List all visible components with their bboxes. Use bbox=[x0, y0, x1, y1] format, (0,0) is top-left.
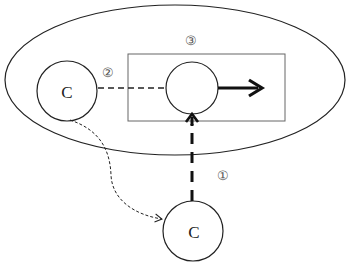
box-label-3: ③ bbox=[185, 34, 197, 47]
diagram-canvas: C C ③ ② ① bbox=[0, 0, 348, 262]
bottom-c-label: C bbox=[188, 224, 199, 241]
edge-label-1: ① bbox=[217, 169, 229, 182]
edge-label-2: ② bbox=[102, 66, 114, 79]
curved-dotted-arrow bbox=[70, 120, 162, 219]
left-c-label: C bbox=[61, 84, 72, 101]
center-node bbox=[166, 62, 218, 114]
edge-1-dashed-arrow bbox=[186, 114, 198, 201]
